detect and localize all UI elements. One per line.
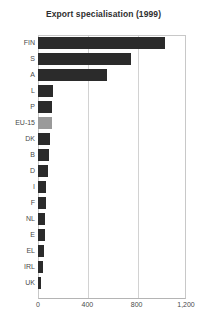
chart-container: Export specialisation (1999) FINSALPEU-1…	[0, 0, 207, 331]
x-tick-label: 1,200	[177, 301, 195, 308]
bar-row	[38, 51, 186, 67]
bar-f	[38, 197, 46, 209]
bar-dk	[38, 133, 50, 145]
bar-b	[38, 149, 49, 161]
bar-row	[38, 83, 186, 99]
category-label-irl: IRL	[0, 259, 35, 275]
category-label-i: I	[0, 179, 35, 195]
category-axis-labels: FINSALPEU-15DKBDIFNLEELIRLUK	[0, 35, 35, 299]
category-label-el: EL	[0, 243, 35, 259]
category-label-d: D	[0, 163, 35, 179]
category-label-a: A	[0, 67, 35, 83]
x-tick-label: 0	[36, 301, 40, 308]
bar-row	[38, 131, 186, 147]
bar-l	[38, 85, 53, 97]
category-label-l: L	[0, 83, 35, 99]
category-label-nl: NL	[0, 211, 35, 227]
bar-e	[38, 229, 45, 241]
x-tick-label: 800	[131, 301, 143, 308]
bar-row	[38, 243, 186, 259]
category-label-f: F	[0, 195, 35, 211]
bar-el	[38, 245, 44, 257]
x-tick-label: 400	[81, 301, 93, 308]
bar-row	[38, 115, 186, 131]
category-label-eu-15: EU-15	[0, 115, 35, 131]
bar-d	[38, 165, 48, 177]
x-axis-tick-labels: 04008001,200	[0, 301, 207, 317]
bar-row	[38, 147, 186, 163]
bar-row	[38, 275, 186, 291]
bar-irl	[38, 261, 43, 273]
category-label-b: B	[0, 147, 35, 163]
bar-row	[38, 227, 186, 243]
bar-row	[38, 99, 186, 115]
bar-row	[38, 195, 186, 211]
bar-nl	[38, 213, 45, 225]
category-label-dk: DK	[0, 131, 35, 147]
bars-layer	[38, 35, 186, 299]
category-label-p: P	[0, 99, 35, 115]
bar-row	[38, 259, 186, 275]
bar-fin	[38, 37, 165, 49]
bar-row	[38, 163, 186, 179]
chart-title: Export specialisation (1999)	[0, 9, 207, 19]
category-label-e: E	[0, 227, 35, 243]
bar-eu-15	[38, 117, 52, 129]
bar-row	[38, 211, 186, 227]
category-label-uk: UK	[0, 275, 35, 291]
bar-row	[38, 67, 186, 83]
bar-row	[38, 35, 186, 51]
bar-p	[38, 101, 52, 113]
bar-i	[38, 181, 46, 193]
bar-uk	[38, 277, 41, 289]
bar-a	[38, 69, 107, 81]
category-label-s: S	[0, 51, 35, 67]
category-label-fin: FIN	[0, 35, 35, 51]
bar-row	[38, 179, 186, 195]
bar-s	[38, 53, 131, 65]
